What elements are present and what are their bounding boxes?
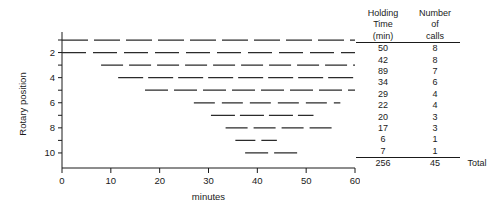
holding-time-value: 7 bbox=[356, 146, 410, 158]
calls-value: 8 bbox=[410, 55, 460, 66]
calls-value: 4 bbox=[410, 100, 460, 111]
number-of-calls-header: Number bbox=[410, 8, 460, 19]
x-tick-label: 0 bbox=[59, 175, 64, 186]
summary-table-body: HoldingNumberTimeof(min)calls50842889734… bbox=[356, 8, 494, 170]
holding-time-value: 6 bbox=[356, 134, 410, 145]
holding-time-value: 29 bbox=[356, 89, 410, 100]
y-tick-label: 10 bbox=[44, 147, 55, 158]
table-row: 897 bbox=[356, 66, 494, 77]
total-calls-value: 45 bbox=[410, 158, 460, 170]
calls-value: 7 bbox=[410, 66, 460, 77]
x-tick-label: 30 bbox=[203, 175, 214, 186]
plot-svg: 246810Rotary position0102030405060minute… bbox=[0, 0, 360, 220]
total-holding-time-value: 256 bbox=[356, 158, 410, 170]
table-row: 508 bbox=[356, 43, 494, 55]
holding-time-value: 42 bbox=[356, 55, 410, 66]
calls-value: 1 bbox=[410, 146, 460, 158]
row-spacer bbox=[460, 134, 494, 145]
holding-time-value: 34 bbox=[356, 77, 410, 88]
x-axis-title: minutes bbox=[192, 191, 226, 202]
figure-root: 246810Rotary position0102030405060minute… bbox=[0, 0, 498, 220]
row-spacer bbox=[460, 89, 494, 100]
header-spacer bbox=[460, 8, 494, 19]
table-header-row: HoldingNumber bbox=[356, 8, 494, 19]
holding-time-header: Time bbox=[356, 19, 410, 30]
table-header-row: Timeof bbox=[356, 19, 494, 30]
timeline-chart: 246810Rotary position0102030405060minute… bbox=[0, 0, 360, 220]
number-of-calls-header: calls bbox=[410, 31, 460, 43]
calls-value: 3 bbox=[410, 112, 460, 123]
x-tick-label: 60 bbox=[350, 175, 360, 186]
holding-time-header: Holding bbox=[356, 8, 410, 19]
row-spacer bbox=[460, 66, 494, 77]
table-row: 71 bbox=[356, 146, 494, 158]
y-tick-label: 2 bbox=[50, 47, 55, 58]
number-of-calls-header: of bbox=[410, 19, 460, 30]
header-spacer bbox=[460, 31, 494, 43]
y-tick-label: 4 bbox=[50, 72, 55, 83]
summary-table: HoldingNumberTimeof(min)calls50842889734… bbox=[356, 8, 498, 170]
calls-value: 4 bbox=[410, 89, 460, 100]
table-row: 428 bbox=[356, 55, 494, 66]
row-spacer bbox=[460, 43, 494, 55]
holding-time-value: 22 bbox=[356, 100, 410, 111]
x-tick-label: 50 bbox=[301, 175, 312, 186]
calls-value: 6 bbox=[410, 77, 460, 88]
table-header-row: (min)calls bbox=[356, 31, 494, 43]
calls-value: 1 bbox=[410, 134, 460, 145]
holding-time-header: (min) bbox=[356, 31, 410, 43]
row-spacer bbox=[460, 100, 494, 111]
calls-value: 8 bbox=[410, 43, 460, 55]
row-spacer bbox=[460, 123, 494, 134]
total-label: Total bbox=[460, 158, 494, 170]
holding-time-value: 50 bbox=[356, 43, 410, 55]
table-row: 61 bbox=[356, 134, 494, 145]
table-row: 173 bbox=[356, 123, 494, 134]
calls-value: 3 bbox=[410, 123, 460, 134]
holding-time-value: 17 bbox=[356, 123, 410, 134]
table-total-row: 25645Total bbox=[356, 158, 494, 170]
y-tick-label: 6 bbox=[50, 97, 55, 108]
table-row: 346 bbox=[356, 77, 494, 88]
row-spacer bbox=[460, 55, 494, 66]
table-row: 203 bbox=[356, 112, 494, 123]
row-spacer bbox=[460, 112, 494, 123]
row-spacer bbox=[460, 146, 494, 158]
table-row: 224 bbox=[356, 100, 494, 111]
header-spacer bbox=[460, 19, 494, 30]
x-tick-label: 40 bbox=[252, 175, 263, 186]
y-tick-label: 8 bbox=[50, 122, 55, 133]
x-tick-label: 20 bbox=[154, 175, 165, 186]
y-axis-title: Rotary position bbox=[17, 72, 28, 135]
holding-time-value: 20 bbox=[356, 112, 410, 123]
holding-time-value: 89 bbox=[356, 66, 410, 77]
table-row: 294 bbox=[356, 89, 494, 100]
x-tick-label: 10 bbox=[106, 175, 117, 186]
row-spacer bbox=[460, 77, 494, 88]
